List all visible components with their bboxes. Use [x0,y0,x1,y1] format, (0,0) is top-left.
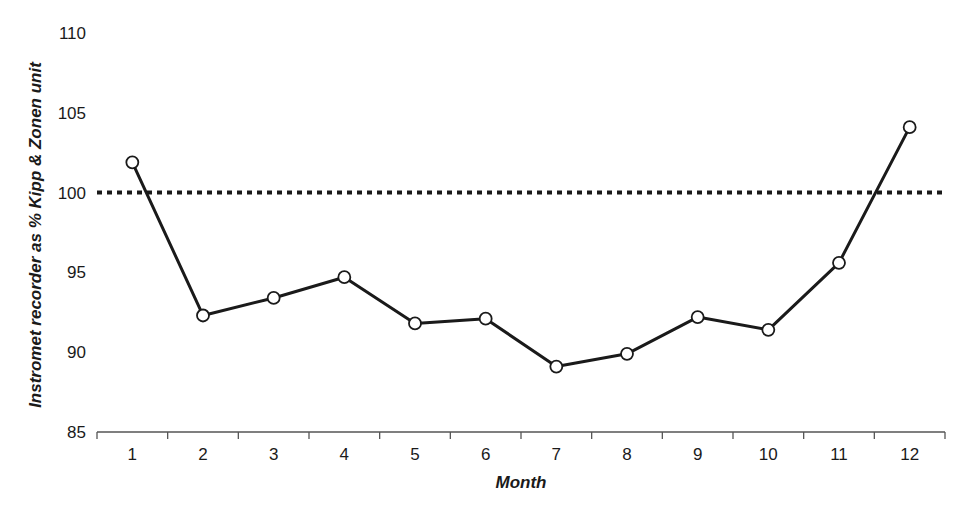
data-point-marker [338,271,350,283]
data-point-marker [409,317,421,329]
x-tick-label: 5 [410,445,419,464]
x-tick-label: 1 [128,445,137,464]
x-axis [97,432,945,439]
x-tick-label: 7 [552,445,561,464]
y-axis-tick-labels: 859095100105110 [58,24,86,442]
data-point-marker [762,324,774,336]
y-tick-label: 85 [67,423,86,442]
y-axis-title: Instromet recorder as % Kipp & Zonen uni… [26,61,45,408]
x-tick-label: 4 [340,445,349,464]
data-point-marker [550,361,562,373]
x-tick-label: 10 [759,445,778,464]
y-tick-label: 90 [67,343,86,362]
x-tick-label: 12 [900,445,919,464]
y-tick-label: 100 [58,184,86,203]
x-tick-label: 3 [269,445,278,464]
x-tick-label: 8 [622,445,631,464]
x-tick-label: 2 [198,445,207,464]
data-series [126,121,915,372]
data-point-marker [268,292,280,304]
data-point-marker [692,311,704,323]
y-tick-label: 105 [58,104,86,123]
x-axis-title: Month [496,473,547,492]
y-tick-label: 95 [67,263,86,282]
line-chart: 859095100105110 123456789101112 Month In… [0,0,969,511]
x-tick-label: 6 [481,445,490,464]
data-point-marker [621,348,633,360]
y-tick-label: 110 [59,24,86,43]
x-axis-tick-labels: 123456789101112 [128,445,920,464]
data-point-marker [126,156,138,168]
data-point-marker [904,121,916,133]
data-point-marker [197,309,209,321]
series-line [132,127,909,366]
data-point-marker [480,313,492,325]
data-point-marker [833,257,845,269]
x-tick-label: 9 [693,445,702,464]
x-tick-label: 11 [830,445,848,464]
